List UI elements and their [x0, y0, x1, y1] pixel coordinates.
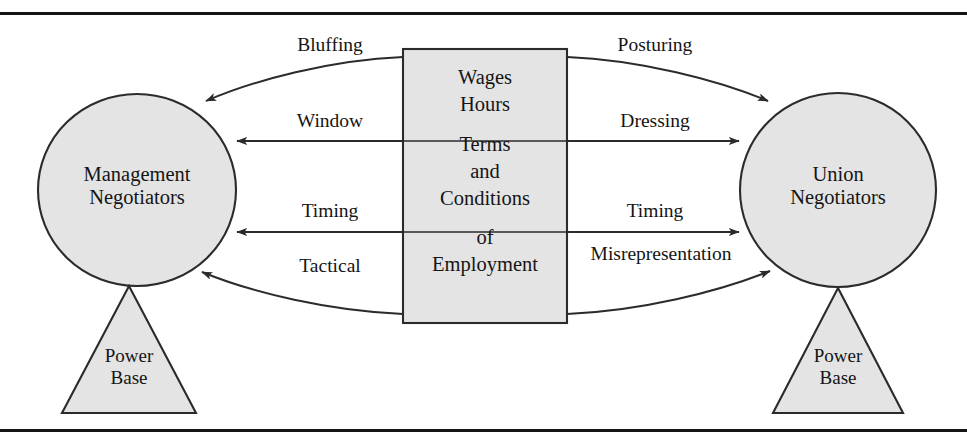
- box-line-and: and: [403, 158, 567, 185]
- power-base-right-line1: Power: [778, 345, 898, 367]
- arrow-posturing: [567, 57, 768, 101]
- box-line-wages: Wages: [403, 64, 567, 91]
- box-line-hours: Hours: [403, 91, 567, 118]
- power-base-left-label: Power Base: [69, 345, 189, 388]
- management-negotiators-line2: Negotiators: [37, 186, 237, 209]
- diagram-page: Management Negotiators Union Negotiators…: [0, 0, 967, 447]
- arrow-misrepresentation: [567, 271, 770, 314]
- box-gap-2: [403, 212, 567, 224]
- arrow-label-misrepresentation: Misrepresentation: [563, 243, 759, 265]
- box-gap-1: [403, 118, 567, 131]
- subject-matter-box-text: Wages Hours Terms and Conditions of Empl…: [403, 64, 567, 278]
- power-base-right-label: Power Base: [778, 345, 898, 388]
- management-negotiators-label: Management Negotiators: [37, 163, 237, 210]
- power-base-left-line1: Power: [69, 345, 189, 367]
- arrow-label-posturing: Posturing: [570, 34, 740, 56]
- power-base-right-line2: Base: [778, 367, 898, 389]
- union-negotiators-line1: Union: [738, 163, 938, 186]
- union-negotiators-line2: Negotiators: [738, 186, 938, 209]
- arrow-bluffing: [206, 57, 403, 101]
- box-line-terms: Terms: [403, 131, 567, 158]
- arrow-tactical: [202, 272, 403, 314]
- arrow-label-timing-left: Timing: [250, 200, 410, 222]
- box-line-conditions: Conditions: [403, 185, 567, 212]
- box-line-employment: Employment: [403, 251, 567, 278]
- management-negotiators-line1: Management: [37, 163, 237, 186]
- union-negotiators-label: Union Negotiators: [738, 163, 938, 210]
- arrow-label-window: Window: [250, 110, 410, 132]
- arrow-label-tactical: Tactical: [250, 255, 410, 277]
- arrow-label-timing-right: Timing: [570, 200, 740, 222]
- power-base-left-line2: Base: [69, 367, 189, 389]
- box-line-of: of: [403, 224, 567, 251]
- arrow-label-dressing: Dressing: [570, 110, 740, 132]
- arrow-label-bluffing: Bluffing: [250, 34, 410, 56]
